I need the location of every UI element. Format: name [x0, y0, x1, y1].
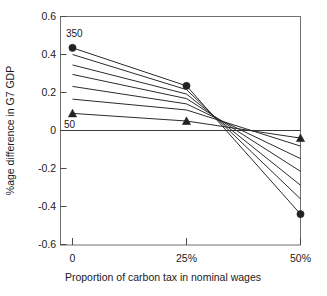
y-tick-label: 0.6: [41, 10, 56, 22]
y-tick-label: -0.6: [38, 238, 56, 250]
y-tick-label: -0.4: [38, 200, 56, 212]
y-tick-label: 0.4: [41, 48, 56, 60]
chart-container: 0.6 0.4 0.2 0 -0.2 -0.4 -0.6 0 25% 50% P…: [0, 0, 327, 296]
chart-svg: 0.6 0.4 0.2 0 -0.2 -0.4 -0.6 0 25% 50% P…: [0, 0, 327, 296]
annotation-top-series: 350: [66, 28, 83, 39]
x-tick-label: 0: [70, 252, 76, 264]
x-axis-title: Proportion of carbon tax in nominal wage…: [65, 271, 261, 283]
y-tick-label: 0: [50, 124, 56, 136]
y-tick-label: 0.2: [41, 86, 56, 98]
annotation-bottom-series: 50: [64, 119, 76, 130]
marker-circle: [297, 211, 304, 218]
y-axis-title: %age difference in G7 GDP: [4, 66, 16, 195]
y-tick-label: -0.2: [38, 162, 56, 174]
x-tick-label: 25%: [176, 252, 197, 264]
marker-circle: [69, 44, 76, 51]
x-tick-label: 50%: [290, 252, 311, 264]
